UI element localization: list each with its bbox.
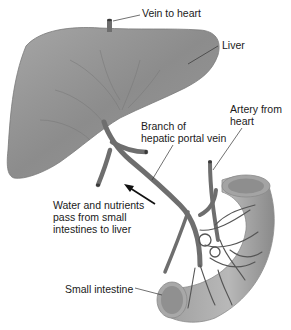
- hepatic-portal-vein: [98, 122, 216, 272]
- label-liver: Liver: [222, 39, 245, 51]
- vessel-end: [144, 150, 147, 154]
- hepatic-portal-diagram: [0, 0, 291, 330]
- label-vein-to-heart: Vein to heart: [142, 7, 201, 19]
- label-branch-hepatic-portal-vein: Branch of hepatic portal vein: [141, 120, 226, 144]
- vein-to-heart-vessel: [107, 19, 112, 32]
- liver-organ: [7, 28, 219, 179]
- label-small-intestine: Small intestine: [65, 283, 133, 295]
- artery-end: [208, 161, 212, 164]
- label-artery-from-heart: Artery from heart: [230, 103, 282, 127]
- label-water-nutrients: Water and nutrients pass from small inte…: [53, 199, 144, 235]
- vessel-end: [96, 183, 100, 186]
